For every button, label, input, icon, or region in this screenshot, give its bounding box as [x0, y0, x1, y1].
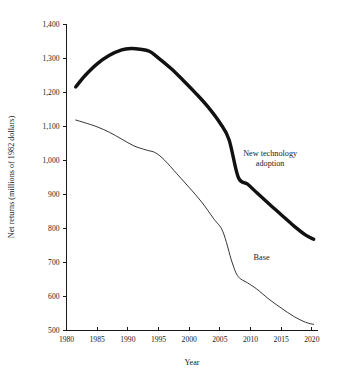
figure-caption-fragment	[24, 384, 324, 389]
x-tick-label: 2010	[243, 335, 258, 344]
y-tick-label: 1,100	[42, 122, 59, 131]
x-tick-label: 2000	[182, 335, 197, 344]
x-axis-title: Year	[184, 358, 199, 367]
line-chart: 5006007008009001,0001,1001,2001,3001,400…	[0, 0, 346, 389]
annotation-line-1: New technology	[243, 149, 298, 158]
y-tick-label: 900	[48, 190, 60, 199]
annotation-line-2: adoption	[256, 159, 285, 168]
y-axis-title: Net returns (millions of 1982 dollars)	[7, 115, 16, 238]
y-tick-label: 1,400	[42, 20, 59, 29]
series-annotation-0: New technologyadoption	[243, 149, 298, 168]
x-tick-label: 1995	[151, 335, 166, 344]
x-tick-label: 1990	[120, 335, 135, 344]
data-series-group	[76, 48, 314, 324]
y-tick-label: 800	[48, 224, 60, 233]
y-tick-label: 1,000	[42, 156, 59, 165]
x-tick-label: 1980	[59, 335, 74, 344]
y-tick-label: 1,200	[42, 88, 59, 97]
x-axis: 198019851990199520002005201020152020	[59, 327, 320, 344]
x-axis-ticks	[67, 327, 312, 331]
y-axis: 5006007008009001,0001,1001,2001,3001,400	[42, 20, 66, 336]
x-tick-label: 2015	[274, 335, 289, 344]
x-tick-label: 2020	[304, 335, 319, 344]
x-tick-label: 2005	[212, 335, 227, 344]
x-axis-tick-labels: 198019851990199520002005201020152020	[59, 335, 320, 344]
y-axis-tick-labels: 5006007008009001,0001,1001,2001,3001,400	[42, 20, 59, 336]
y-tick-label: 700	[48, 258, 60, 267]
x-tick-label: 1985	[90, 335, 105, 344]
figure-container: 5006007008009001,0001,1001,2001,3001,400…	[0, 0, 346, 389]
y-axis-ticks	[63, 24, 67, 331]
y-tick-label: 600	[48, 292, 60, 301]
y-tick-label: 1,300	[42, 54, 59, 63]
annotation-line-1: Base	[254, 253, 270, 262]
series-annotation-1: Base	[254, 253, 270, 262]
series-line-0	[76, 48, 314, 239]
